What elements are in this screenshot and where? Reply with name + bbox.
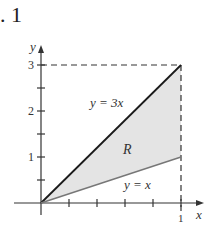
y-tick-label-3: 3 — [28, 58, 34, 72]
label-y-equals-x: y = x — [122, 177, 151, 192]
y-tick-label-1: 1 — [28, 150, 34, 164]
y-axis-arrow-icon — [38, 45, 44, 53]
label-y-equals-3x: y = 3x — [88, 95, 124, 110]
x-axis-arrow-icon — [196, 200, 204, 206]
x-axis-label: x — [195, 207, 202, 222]
y-axis-label: y — [28, 39, 36, 54]
region-graph: 3 2 1 1 y x y = 3x R y = x — [0, 0, 207, 226]
label-region-r: R — [122, 142, 132, 157]
y-tick-label-2: 2 — [28, 104, 34, 118]
x-tick-label-1: 1 — [178, 212, 184, 224]
